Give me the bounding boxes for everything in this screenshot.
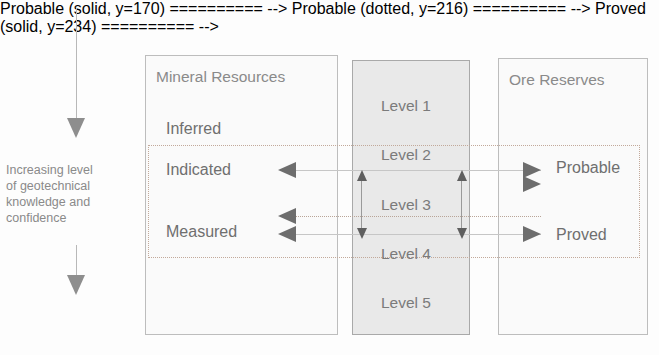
down-arrow-icon-bottom: [67, 275, 85, 295]
category-label-indicated: Indicated: [166, 161, 231, 179]
panel-title-ore-reserves: Ore Reserves: [509, 71, 605, 89]
panel-ore-reserves: Ore Reserves: [498, 58, 648, 335]
confidence-axis-caption: Increasing level of geotechnical knowled…: [6, 162, 138, 226]
connector-measured-probable-dotted: [296, 216, 541, 217]
panel-mineral-resources: Mineral Resources: [145, 55, 338, 335]
level-label-1: Level 1: [381, 97, 431, 115]
down-arrow-icon-top: [67, 118, 85, 138]
panel-title-mineral-resources: Mineral Resources: [156, 68, 285, 86]
arrow-left-indicated: [278, 162, 296, 178]
level-label-3: Level 3: [381, 196, 431, 214]
mineral-resources-ore-reserves-diagram: Increasing level of geotechnical knowled…: [0, 0, 659, 355]
category-label-proved: Proved: [556, 226, 607, 244]
level-range-arrow-stem-right: [461, 172, 462, 236]
down-arrow-icon-level-right: [457, 228, 467, 239]
arrow-left-measured-upper: [278, 208, 296, 224]
down-arrow-icon-level-left: [357, 228, 367, 239]
up-arrow-icon-level-right: [457, 170, 467, 181]
level-range-arrow-stem-left: [361, 172, 362, 236]
confidence-axis-line-bottom: [76, 245, 77, 277]
connector-indicated-probable: [296, 170, 541, 171]
category-label-measured: Measured: [166, 223, 237, 241]
up-arrow-icon-level-left: [357, 170, 367, 181]
arrow-right-probable-lower: [523, 176, 541, 192]
level-label-4: Level 4: [381, 245, 431, 263]
arrow-left-measured-lower: [278, 226, 296, 242]
confidence-axis-line-top: [76, 8, 77, 120]
ore-reserve-band-edge-right: [639, 145, 640, 258]
category-label-probable: Probable: [556, 159, 620, 177]
connector-measured-proved: [296, 234, 541, 235]
level-label-5: Level 5: [381, 294, 431, 312]
ore-reserve-band-edge-left: [148, 145, 149, 258]
level-label-2: Level 2: [381, 146, 431, 164]
category-label-inferred: Inferred: [166, 120, 221, 138]
arrow-right-proved: [523, 226, 541, 242]
